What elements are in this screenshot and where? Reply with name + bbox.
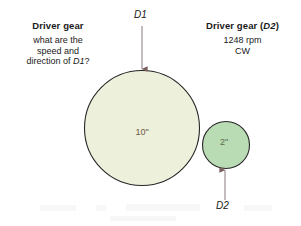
right-heading: Driver gear (D2) bbox=[190, 20, 295, 31]
small-gear-diameter-label: 2" bbox=[211, 137, 237, 148]
d2-label: D2 bbox=[216, 200, 229, 212]
right-annotation-block: Driver gear (D2) 1248 rpm CW bbox=[190, 20, 295, 56]
gear-diagram-figure: Driver gear what are the speed and direc… bbox=[0, 0, 301, 226]
right-speed-value: 1248 rpm bbox=[190, 35, 295, 46]
page-showthrough bbox=[40, 204, 272, 221]
left-question-line-1: what are the bbox=[8, 35, 108, 46]
left-annotation-block: Driver gear what are the speed and direc… bbox=[8, 20, 108, 67]
left-question-line-2: speed and bbox=[8, 46, 108, 57]
inline-variable-d1: D1 bbox=[73, 56, 85, 66]
left-heading: Driver gear bbox=[8, 20, 108, 31]
right-direction-value: CW bbox=[190, 46, 295, 57]
left-question-line-3: direction of D1? bbox=[8, 56, 108, 67]
d1-label: D1 bbox=[134, 9, 147, 21]
big-gear-diameter-label: 10" bbox=[127, 127, 157, 138]
inline-variable-d2: D2 bbox=[263, 20, 275, 31]
